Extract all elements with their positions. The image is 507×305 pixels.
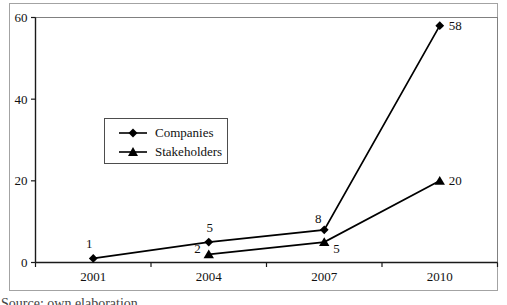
legend-label-companies: Companies xyxy=(155,126,214,139)
data-label: 58 xyxy=(449,18,462,33)
data-label: 5 xyxy=(207,220,214,235)
legend-item-companies: Companies xyxy=(118,123,227,142)
data-label: 2 xyxy=(194,241,201,256)
diamond-data-point-marker xyxy=(320,225,329,234)
x-tick-label: 2007 xyxy=(311,269,338,284)
legend-item-stakeholders: Stakeholders xyxy=(118,142,227,161)
line-chart: 02040602001200420072010158582520 Compani… xyxy=(0,0,507,305)
triangle-data-point-marker xyxy=(435,176,445,185)
data-label: 20 xyxy=(449,173,462,188)
diamond-data-point-marker xyxy=(89,254,98,263)
y-tick-label: 40 xyxy=(15,92,28,107)
data-label: 1 xyxy=(86,236,93,251)
triangle-data-point-marker xyxy=(319,237,329,246)
source-caption-cropped: Source: own elaboration xyxy=(1,296,401,305)
diamond-data-point-marker xyxy=(204,238,213,247)
y-tick-label: 60 xyxy=(15,10,28,25)
x-tick-label: 2004 xyxy=(196,269,223,284)
stakeholders-triangle-marker-icon xyxy=(118,146,148,158)
chart-legend: Companies Stakeholders xyxy=(104,118,228,164)
legend-label-stakeholders: Stakeholders xyxy=(155,145,222,158)
x-tick-label: 2001 xyxy=(80,269,106,284)
y-tick-label: 0 xyxy=(21,255,28,270)
diamond-data-point-marker xyxy=(435,21,444,30)
companies-diamond-marker-icon xyxy=(118,127,148,139)
x-tick-label: 2010 xyxy=(427,269,453,284)
data-label: 5 xyxy=(333,241,340,256)
data-label: 8 xyxy=(315,211,322,226)
y-tick-label: 20 xyxy=(15,173,28,188)
chart-canvas: 02040602001200420072010158582520 xyxy=(0,0,507,305)
